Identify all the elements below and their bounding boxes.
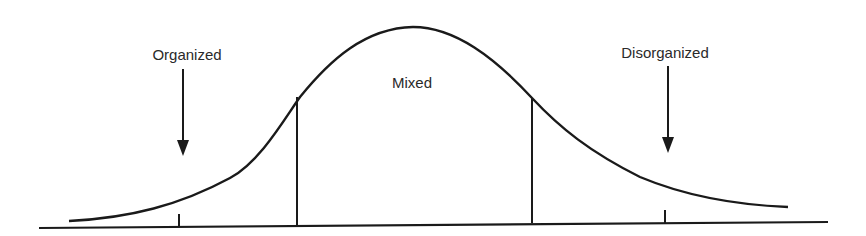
x-axis	[39, 222, 828, 228]
arrow-down-icon-left	[177, 69, 189, 156]
arrow-down-icon-right	[662, 66, 674, 153]
label-organized: Organized	[152, 46, 221, 63]
label-disorganized: Disorganized	[621, 44, 709, 61]
bell-curve-graphic	[0, 0, 866, 236]
label-mixed: Mixed	[392, 74, 432, 91]
bell-curve-diagram: Organized Mixed Disorganized	[0, 0, 866, 236]
